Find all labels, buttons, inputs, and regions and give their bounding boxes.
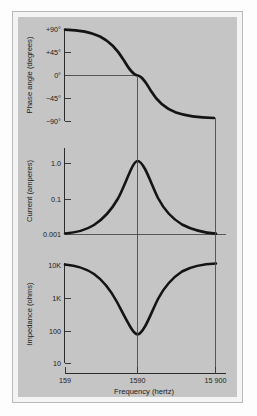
x-axis-ticks [65, 367, 216, 374]
resonance-chart: +90° +45° 0° −45° −90° [18, 17, 237, 397]
phase-curve [65, 30, 214, 118]
phase-ticks [65, 29, 72, 121]
phase-axis-title: Phase angle (degrees) [25, 36, 34, 113]
impedance-tick-label-10: 10 [53, 359, 61, 368]
phase-tick-label-0: 0° [54, 71, 61, 80]
plot-panel: +90° +45° 0° −45° −90° [18, 17, 237, 397]
impedance-tick-label-1k: 1K [52, 294, 61, 303]
figure-frame: +90° +45° 0° −45° −90° [12, 11, 243, 403]
current-panel: 1.0 0.1 0.001 [43, 148, 226, 239]
impedance-tick-label-100: 100 [49, 327, 61, 336]
current-tick-label-01: 0.1 [51, 195, 61, 204]
current-curve [65, 161, 216, 234]
phase-tick-label-90n: −90° [46, 117, 61, 126]
x-axis-title: Frequency (hertz) [114, 387, 174, 396]
impedance-curve [65, 264, 216, 335]
x-tick-label-15900: 15 900 [205, 376, 227, 385]
x-tick-label-159: 159 [59, 376, 71, 385]
phase-tick-label-45n: −45° [46, 94, 61, 103]
phase-panel: +90° +45° 0° −45° −90° [46, 25, 214, 126]
impedance-ticks [65, 265, 72, 363]
x-tick-label-1590: 1590 [130, 376, 146, 385]
figure-root: +90° +45° 0° −45° −90° [0, 0, 257, 416]
impedance-panel: 10K 1K 100 10 [48, 261, 216, 368]
current-tick-label-1: 1.0 [51, 159, 61, 168]
impedance-axis-title: Impedance (ohms) [25, 282, 34, 346]
phase-tick-label-90p: +90° [46, 25, 61, 34]
impedance-tick-label-10k: 10K [48, 261, 61, 270]
current-ticks [65, 163, 72, 234]
current-tick-label-0001: 0.001 [43, 230, 61, 239]
current-axis-title: Current (amperes) [25, 160, 34, 223]
phase-tick-label-45p: +45° [46, 48, 61, 57]
